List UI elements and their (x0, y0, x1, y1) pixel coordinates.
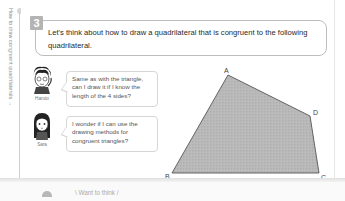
sara-avatar-icon (31, 112, 53, 140)
speech-bubble-sara: I wonder if I can use the drawing method… (66, 116, 158, 152)
question-number-badge: 3 (30, 16, 43, 30)
speaker-name: Sara (27, 142, 57, 147)
speech-bubble-haruto: Same as with the triangle, can I draw it… (66, 71, 158, 107)
question-box: Let's think about how to draw a quadrila… (35, 20, 327, 56)
side-section-label: How to draw congruent quadrilaterals → (0, 8, 14, 138)
character-sara: Sara (27, 112, 57, 147)
next-section-area (0, 182, 345, 201)
next-section-heading: \ Want to think / (75, 189, 119, 196)
haruto-avatar-icon (31, 66, 53, 94)
speaker-name: Haruto (27, 96, 57, 101)
question-text: Let's think about how to draw a quadrila… (48, 28, 307, 50)
character-haruto: Haruto (27, 66, 57, 101)
bubble-text: Same as with the triangle, can I draw it… (72, 75, 143, 99)
bubble-text: I wonder if I can use the drawing method… (72, 120, 138, 144)
exercise-page: Let's think about how to draw a quadrila… (21, 0, 335, 178)
timeline-rule (19, 11, 20, 178)
character-head-icon (42, 191, 52, 197)
